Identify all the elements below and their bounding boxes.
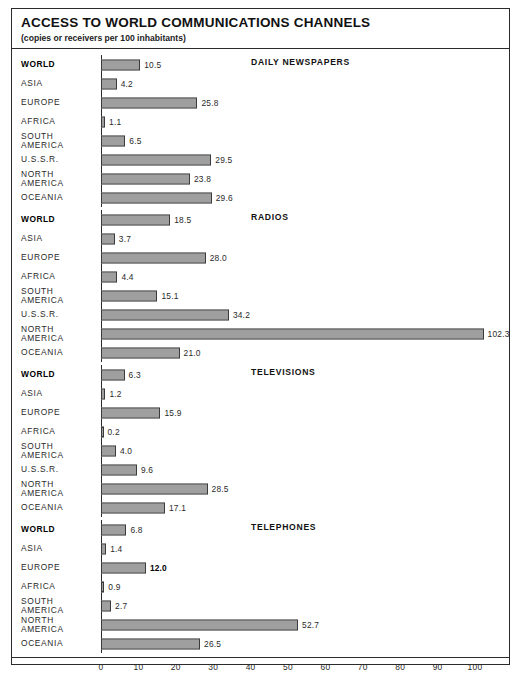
bar-track: 12.0	[101, 558, 509, 577]
row-label: WORLD	[21, 525, 55, 535]
chart-row: EUROPE28.0	[12, 248, 509, 267]
axis-tick-label: 100	[468, 662, 483, 672]
bar[interactable]	[101, 59, 140, 70]
bar[interactable]	[101, 369, 125, 380]
bar[interactable]	[101, 233, 115, 244]
chart-row: WORLD18.5	[12, 210, 509, 229]
bar-value-label: 17.1	[169, 503, 186, 513]
bar-value-label: 4.2	[121, 79, 133, 89]
axis-tick-label: 50	[283, 662, 293, 672]
chart-row: SOUTH AMERICA6.5	[12, 131, 509, 150]
bar[interactable]	[101, 581, 104, 592]
bar-track: 9.6	[101, 460, 509, 479]
bar-track: 4.4	[101, 267, 509, 286]
row-label: NORTH AMERICA	[21, 479, 64, 498]
bar[interactable]	[101, 524, 126, 535]
bar[interactable]	[101, 426, 104, 437]
bar[interactable]	[101, 309, 229, 320]
row-label: AFRICA	[21, 272, 56, 282]
bar[interactable]	[101, 290, 157, 301]
bar[interactable]	[101, 543, 106, 554]
bar-value-label: 18.5	[174, 215, 191, 225]
bar[interactable]	[101, 116, 105, 127]
chart-row: NORTH AMERICA23.8	[12, 169, 509, 188]
row-label: SOUTH AMERICA	[21, 286, 64, 305]
chart-row: U.S.S.R.9.6	[12, 460, 509, 479]
row-label: U.S.S.R.	[21, 465, 59, 475]
bar-value-label: 15.9	[164, 408, 181, 418]
bar[interactable]	[101, 445, 116, 456]
axis-tick-label: 30	[208, 662, 218, 672]
row-label: NORTH AMERICA	[21, 169, 64, 188]
bar-track: 25.8	[101, 93, 509, 112]
bar[interactable]	[101, 78, 117, 89]
axis-tick-label: 20	[171, 662, 181, 672]
bar-track: 3.7	[101, 229, 509, 248]
bar-track: 6.8	[101, 520, 509, 539]
axis-tick-label: 80	[395, 662, 405, 672]
chart-row: AFRICA0.2	[12, 422, 509, 441]
bar-value-label: 23.8	[194, 174, 211, 184]
bar[interactable]	[101, 173, 190, 184]
bar[interactable]	[101, 328, 484, 339]
chart-row: WORLD10.5	[12, 55, 509, 74]
bar-track: 26.5	[101, 634, 509, 653]
bar-value-label: 15.1	[161, 291, 178, 301]
chart-row: ASIA3.7	[12, 229, 509, 248]
bar[interactable]	[101, 252, 206, 263]
chart-row: EUROPE25.8	[12, 93, 509, 112]
axis-tick-label: 60	[320, 662, 330, 672]
bar[interactable]	[101, 483, 208, 494]
page-title: ACCESS TO WORLD COMMUNICATIONS CHANNELS	[21, 15, 509, 31]
chart-row: ASIA4.2	[12, 74, 509, 93]
bar[interactable]	[101, 214, 170, 225]
bar-track: 52.7	[101, 615, 509, 634]
chart-row: WORLD6.3	[12, 365, 509, 384]
bar-track: 17.1	[101, 498, 509, 517]
row-label: EUROPE	[21, 253, 60, 263]
bar-track: 6.5	[101, 131, 509, 150]
row-label: EUROPE	[21, 98, 60, 108]
bar-value-label: 28.0	[210, 253, 227, 263]
row-label: SOUTH AMERICA	[21, 596, 64, 615]
bar[interactable]	[101, 638, 200, 649]
axis-tick-label: 70	[358, 662, 368, 672]
plot-area: DAILY NEWSPAPERSWORLD10.5ASIA4.2EUROPE25…	[12, 49, 509, 653]
bar-value-label: 25.8	[201, 98, 218, 108]
chart-row: WORLD6.8	[12, 520, 509, 539]
row-label: EUROPE	[21, 563, 60, 573]
bar[interactable]	[101, 135, 125, 146]
row-label: U.S.S.R.	[21, 155, 59, 165]
bar-value-label: 4.0	[120, 446, 132, 456]
bar[interactable]	[101, 619, 298, 630]
bar[interactable]	[101, 562, 146, 573]
row-label: WORLD	[21, 215, 55, 225]
bar[interactable]	[101, 347, 180, 358]
row-label: AFRICA	[21, 427, 56, 437]
chart-row: U.S.S.R.34.2	[12, 305, 509, 324]
bar[interactable]	[101, 464, 137, 475]
row-label: ASIA	[21, 389, 43, 399]
bar-value-label: 3.7	[119, 234, 131, 244]
bar-track: 34.2	[101, 305, 509, 324]
chart-frame: ACCESS TO WORLD COMMUNICATIONS CHANNELS …	[11, 8, 510, 665]
bar-track: 0.2	[101, 422, 509, 441]
bar[interactable]	[101, 271, 117, 282]
bar-value-label: 6.5	[129, 136, 141, 146]
bar-track: 1.1	[101, 112, 509, 131]
bar-value-label: 1.4	[110, 544, 122, 554]
chart-row: NORTH AMERICA52.7	[12, 615, 509, 634]
bar[interactable]	[101, 600, 111, 611]
bar-track: 21.0	[101, 343, 509, 362]
bar-track: 6.3	[101, 365, 509, 384]
bar-track: 102.3	[101, 324, 509, 343]
bar[interactable]	[101, 388, 105, 399]
bar[interactable]	[101, 192, 212, 203]
chart-row: OCEANIA17.1	[12, 498, 509, 517]
bar-track: 29.5	[101, 150, 509, 169]
bar[interactable]	[101, 502, 165, 513]
bar-track: 4.0	[101, 441, 509, 460]
bar[interactable]	[101, 97, 197, 108]
bar[interactable]	[101, 407, 160, 418]
bar[interactable]	[101, 154, 211, 165]
